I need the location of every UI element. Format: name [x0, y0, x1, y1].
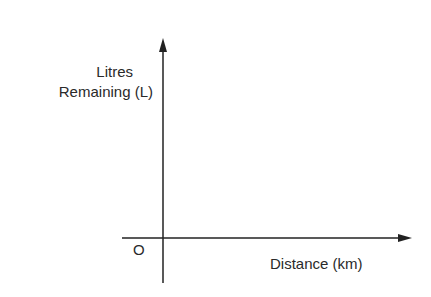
y-axis-arrow-icon — [159, 38, 167, 52]
y-axis-label-line1: Litres — [0, 62, 153, 82]
x-axis-label: Distance (km) — [270, 254, 363, 274]
x-axis-arrow-icon — [398, 234, 412, 242]
y-axis-label: Litres Remaining (L) — [0, 62, 153, 102]
axes-diagram — [0, 0, 431, 297]
origin-label: O — [133, 240, 145, 260]
y-axis-label-line2: Remaining (L) — [0, 82, 153, 102]
